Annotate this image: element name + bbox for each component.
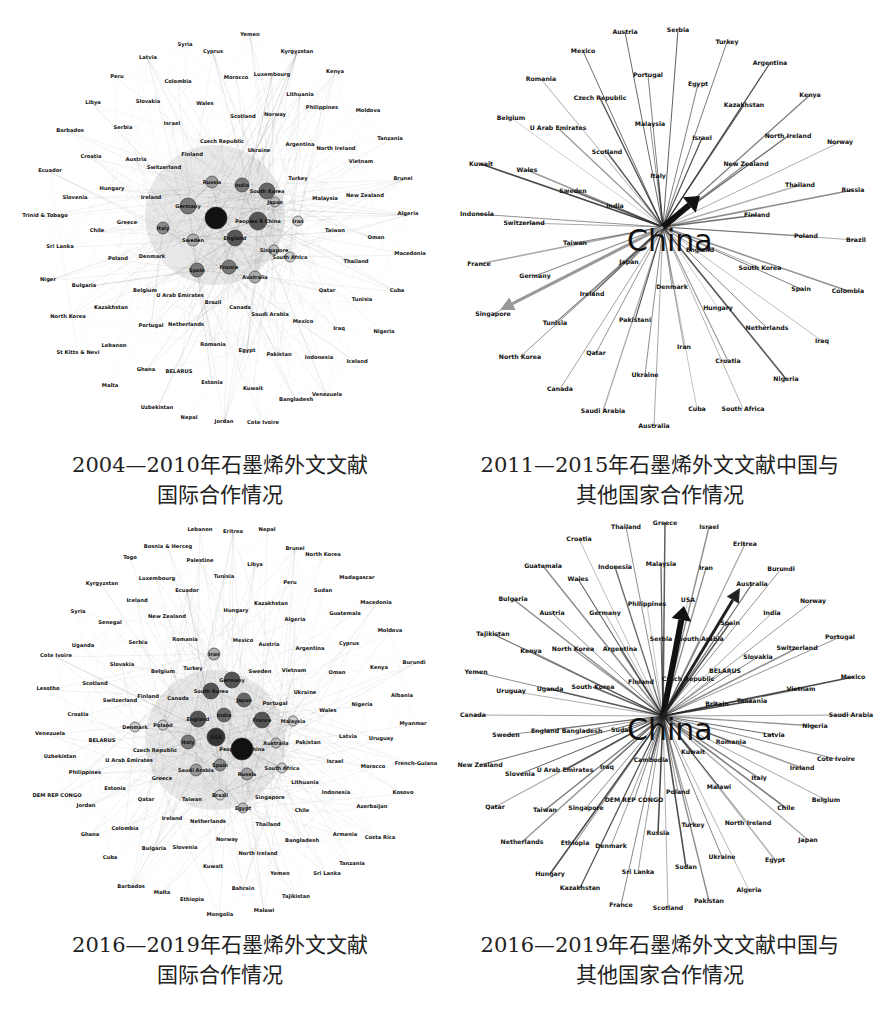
country-label: Lithuania <box>291 779 319 785</box>
country-label: Syria <box>71 608 86 615</box>
country-label: Cuba <box>103 854 118 860</box>
country-label: Tajikistan <box>282 893 310 900</box>
country-label: Norway <box>264 111 287 118</box>
country-label: USA <box>210 734 222 740</box>
country-label: Tanzania <box>737 697 767 704</box>
country-label: Argentina <box>603 645 638 653</box>
country-label: Slovenia <box>505 770 535 777</box>
country-label: Estonia <box>201 379 223 385</box>
country-label: Greece <box>653 520 677 526</box>
country-label: Israel <box>692 134 712 141</box>
country-label: Germany <box>219 677 245 684</box>
country-label: Qatar <box>138 796 155 802</box>
country-label: Serbia <box>114 124 133 130</box>
panel-2016-2019-international: LebanonEritreaNepalBosnia & HercegBrunei… <box>0 520 440 930</box>
country-label: Israel <box>327 758 344 764</box>
country-label: Eritrea <box>223 528 243 534</box>
country-label: Kuwait <box>681 748 705 755</box>
country-label: Uruguay <box>496 687 525 695</box>
country-label: Germany <box>589 609 620 617</box>
caption-2011-2015: 2011—2015年石墨烯外文文献中国与 其他国家合作情况 <box>460 450 860 510</box>
country-label: Togo <box>123 554 137 561</box>
country-label: Kyrgyzstan <box>86 580 119 587</box>
country-label: Scotland <box>592 148 622 155</box>
country-label: Czech Republic <box>574 94 627 102</box>
country-label: Sri Lanka <box>46 243 74 249</box>
country-label: Indonesia <box>305 354 334 360</box>
country-label: Kosovo <box>392 789 414 795</box>
country-label: Taiwan <box>563 239 587 246</box>
country-label: Sweden <box>182 237 205 243</box>
country-label: Austria <box>125 156 147 162</box>
country-label: Canada <box>547 385 573 392</box>
country-label: Switzerland <box>103 697 138 703</box>
country-label: Kenya <box>799 91 821 99</box>
country-label: Saudi Arabia <box>178 767 214 773</box>
country-label: Slovakia <box>743 653 772 660</box>
country-label: Australia <box>638 422 669 429</box>
country-label: Burundi <box>767 565 795 572</box>
country-label: Jordan <box>76 802 96 809</box>
country-label: Portugal <box>262 700 287 707</box>
country-label: Kazakhstan <box>94 304 128 310</box>
country-label: Croatia <box>67 711 89 717</box>
country-label: Philippines <box>306 104 338 111</box>
country-label: Egypt <box>239 347 256 354</box>
caption-line-2: 国际合作情况 <box>20 480 420 510</box>
country-label: Bulgaria <box>498 595 527 603</box>
country-label: Libya <box>247 561 263 568</box>
country-label: Latvia <box>339 733 357 739</box>
country-label: Cuba <box>390 287 405 293</box>
country-label: U Arab Emirates <box>105 757 152 763</box>
country-label: New Zealand <box>148 613 186 619</box>
country-label: North Korea <box>305 551 341 557</box>
country-label: Indonesia <box>322 789 351 795</box>
country-label: Algeria <box>737 886 762 894</box>
country-label: Qatar <box>485 803 506 810</box>
country-label: Sweden <box>559 187 586 194</box>
country-label: DEM REP CONGO <box>605 796 664 803</box>
star-graph: AustriaSerbiaTurkeyMexicoArgentinaRomani… <box>440 0 884 440</box>
country-label: Malta <box>154 889 171 895</box>
country-label: India <box>606 202 623 209</box>
caption-2016-2019-international: 2016—2019年石墨烯外文文献 国际合作情况 <box>20 930 420 990</box>
country-label: Pakistani <box>619 316 651 323</box>
country-label: Singapore <box>260 247 289 254</box>
country-label: Norway <box>216 836 239 843</box>
country-label: Kenya <box>520 647 542 655</box>
panel-2004-2010-international: YemenSyriaCyprusKyrgyzstanLatviaMoroccoL… <box>0 0 440 440</box>
country-label: South Korea <box>739 264 782 271</box>
country-label: Estonia <box>104 785 126 791</box>
country-label: Belgium <box>497 114 525 122</box>
country-label: Barbados <box>117 883 145 889</box>
country-label: Brazil <box>212 792 228 798</box>
country-label: France <box>467 260 490 267</box>
country-label: U Arab Emirates <box>537 766 594 773</box>
country-label: Sweden <box>492 731 519 738</box>
country-label: Nepal <box>181 414 198 421</box>
country-label: Yemen <box>463 668 487 675</box>
country-label: Nigeria <box>802 722 827 730</box>
country-label: Spain <box>189 267 205 274</box>
country-label: Pakistan <box>266 351 291 357</box>
country-label: Taiwan <box>182 796 202 802</box>
country-label: Latvia <box>139 54 157 60</box>
country-label: Poland <box>794 232 818 239</box>
country-label: Iraq <box>815 337 829 345</box>
country-label: Algeria <box>285 616 306 623</box>
caption-line-2: 国际合作情况 <box>20 960 420 990</box>
country-label: South Korea <box>250 188 285 194</box>
country-label: Canada <box>460 711 486 718</box>
country-label: Thailand <box>255 821 280 827</box>
caption-line-1: 2004—2010年石墨烯外文文献 <box>20 450 420 480</box>
country-label: Morocco <box>361 763 386 769</box>
country-label: Argentina <box>286 141 315 148</box>
country-label: Sudan <box>314 587 333 593</box>
country-label: Serbia <box>667 26 689 33</box>
country-label: Finland <box>628 678 654 685</box>
country-label: Moldova <box>378 627 403 633</box>
country-label: Ireland <box>162 815 183 821</box>
country-label: Iceland <box>346 358 367 364</box>
country-label: Peoples R China <box>219 746 264 753</box>
country-label: Indonesia <box>598 563 632 570</box>
